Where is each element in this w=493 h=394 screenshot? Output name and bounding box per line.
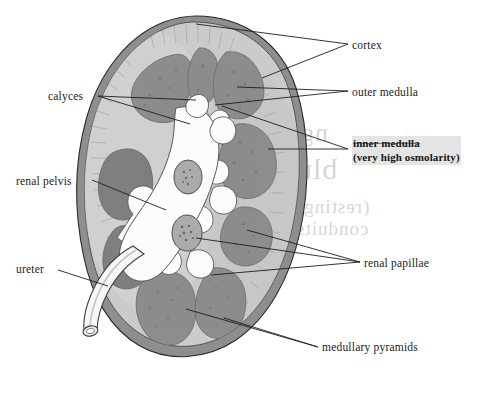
renal-papilla-upper [174,160,202,194]
label-inner-medulla-note: (very high osmolarity) [352,150,461,164]
label-renal-pelvis: renal pelvis [16,174,72,188]
label-outer-medulla: outer medulla [352,85,418,99]
renal-papilla-lower [172,215,202,251]
label-calyces: calyces [48,89,83,103]
label-cortex: cortex [352,38,382,52]
calyx-branch-lower [187,250,214,278]
label-medullary-pyramids: medullary pyramids [322,340,418,354]
label-renal-papillae: renal papillae [364,256,429,270]
calyx-branch-upper-right [210,117,236,144]
label-inner-medulla-line1: inner medulla [352,136,461,150]
kidney-illustration [0,0,493,394]
label-inner-medulla: inner medulla (very high osmolarity) [352,136,461,165]
medullary-pyramid-lower-right [221,207,273,266]
kidney-diagram-figure: ng blu (resting) conduits [0,0,493,394]
calyx-branch-mid-right [210,186,237,214]
label-ureter: ureter [16,262,44,276]
